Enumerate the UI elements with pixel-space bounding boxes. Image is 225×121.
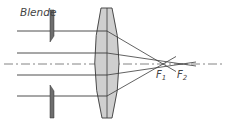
focus1-label: F1 xyxy=(156,69,166,82)
refracted-rays xyxy=(107,31,196,96)
focus2-label: F2 xyxy=(177,69,188,82)
aperture-bottom xyxy=(50,85,54,118)
focus1-subscript: 1 xyxy=(162,74,166,82)
incoming-rays xyxy=(17,31,107,96)
aperture-label: Blende xyxy=(20,6,56,18)
focus2-subscript: 2 xyxy=(183,74,188,82)
optics-diagram: Blende F1 F2 xyxy=(0,0,225,121)
